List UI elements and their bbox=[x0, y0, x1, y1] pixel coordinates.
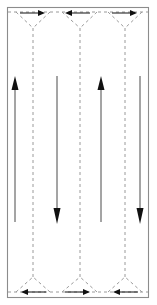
sweep-lane-1-up-arrow bbox=[12, 76, 19, 222]
bottom-vertex-group-1 bbox=[16, 277, 50, 292]
top-vertex-group-3 bbox=[108, 12, 142, 28]
bottom-vertex-group-2 bbox=[62, 277, 97, 292]
bottom-arrow-3 bbox=[113, 289, 138, 295]
bottom-vertex-group-3 bbox=[108, 277, 142, 292]
sweep-lane-4-down-arrow bbox=[137, 76, 144, 224]
top-vertex-group-1 bbox=[16, 12, 50, 28]
region-boundary bbox=[8, 8, 149, 298]
top-arrow-3 bbox=[112, 10, 137, 16]
top-arrow-1 bbox=[20, 10, 45, 16]
bottom-arrow-2 bbox=[65, 289, 90, 295]
diagram-canvas bbox=[0, 0, 157, 305]
boustrophedon-path-diagram bbox=[0, 0, 157, 305]
sweep-lane-3-up-arrow bbox=[98, 76, 105, 222]
sweep-lane-2-down-arrow bbox=[54, 76, 61, 224]
top-vertex-group-2 bbox=[62, 12, 97, 28]
bottom-arrow-1 bbox=[21, 289, 46, 295]
top-arrow-2 bbox=[65, 10, 90, 16]
